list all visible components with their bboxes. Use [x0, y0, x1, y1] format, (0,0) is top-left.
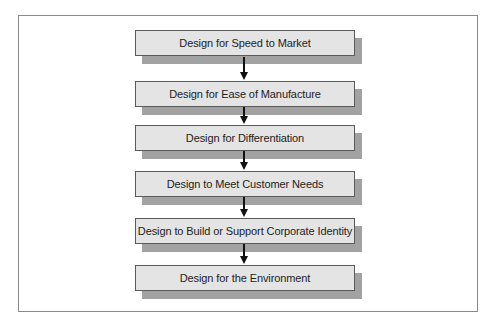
arrow-down-icon	[240, 197, 249, 218]
flow-step-ease-of-manufacture: Design for Ease of Manufacture	[135, 81, 355, 107]
step-box: Design to Meet Customer Needs	[135, 171, 355, 197]
arrow-down-icon	[240, 151, 249, 171]
step-box: Design for Speed to Market	[135, 30, 355, 56]
flow-step-customer-needs: Design to Meet Customer Needs	[135, 171, 355, 197]
arrow-down-icon	[240, 107, 249, 125]
step-box: Design for Differentiation	[135, 125, 355, 151]
flow-step-speed-to-market: Design for Speed to Market	[135, 30, 355, 56]
flow-step-environment: Design for the Environment	[135, 265, 355, 291]
flow-step-corporate-identity: Design to Build or Support Corporate Ide…	[135, 218, 355, 244]
arrow-down-icon	[240, 57, 249, 81]
arrow-down-icon	[240, 244, 249, 265]
step-box: Design for Ease of Manufacture	[135, 81, 355, 107]
step-box: Design for the Environment	[135, 265, 355, 291]
flow-step-differentiation: Design for Differentiation	[135, 125, 355, 151]
step-box: Design to Build or Support Corporate Ide…	[135, 218, 355, 244]
